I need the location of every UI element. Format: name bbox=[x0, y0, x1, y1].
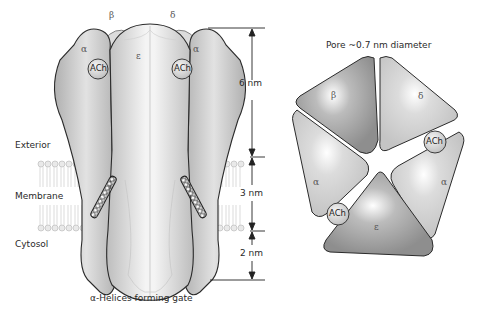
label-alpha-top-left: α bbox=[313, 177, 319, 187]
label-cytosol: Cytosol bbox=[15, 239, 48, 249]
subunit-delta-top bbox=[380, 57, 458, 151]
ach-label-left: ACh bbox=[90, 63, 107, 73]
caption-gate-helices: α-Helices forming gate bbox=[90, 293, 193, 303]
label-delta-top: δ bbox=[418, 91, 423, 101]
label-epsilon-top: ε bbox=[374, 222, 379, 232]
label-membrane: Membrane bbox=[15, 191, 63, 201]
label-alpha-right-side: α bbox=[193, 44, 199, 54]
label-alpha-left-side: α bbox=[81, 44, 87, 54]
label-epsilon-side: ε bbox=[136, 51, 141, 61]
label-exterior: Exterior bbox=[15, 140, 51, 150]
ach-label-right: ACh bbox=[174, 63, 191, 73]
dimension-2nm: 2 nm bbox=[240, 248, 263, 258]
dimension-6nm: 6 nm bbox=[239, 78, 262, 88]
ach-label-top-left: ACh bbox=[329, 208, 346, 218]
label-alpha-top-right: α bbox=[441, 177, 447, 187]
label-beta-top: β bbox=[331, 90, 336, 100]
label-delta-side: δ bbox=[170, 10, 175, 20]
top-view-title: Pore ~0.7 nm diameter bbox=[326, 40, 431, 50]
label-beta-side: β bbox=[109, 10, 114, 20]
ach-label-top-right: ACh bbox=[426, 136, 443, 146]
dimension-3nm: 3 nm bbox=[240, 188, 263, 198]
